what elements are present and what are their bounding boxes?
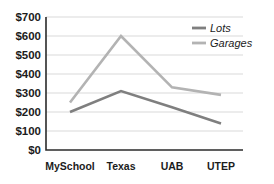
- chart-canvas: $700 $600 $500 $400 $300 $200 $100 $0 My…: [0, 0, 274, 184]
- y-tick-label-0: $0: [28, 144, 41, 156]
- legend-label-lots: Lots: [210, 22, 231, 34]
- y-tick-label-600: $600: [15, 30, 41, 42]
- x-tick-label-myschool: MySchool: [45, 160, 95, 172]
- line-chart: $700 $600 $500 $400 $300 $200 $100 $0 My…: [0, 0, 274, 184]
- legend-label-garages: Garages: [210, 37, 253, 49]
- x-tick-label-texas: Texas: [107, 160, 136, 172]
- y-tick-label-400: $400: [15, 68, 41, 80]
- y-tick-label-300: $300: [15, 87, 41, 99]
- y-tick-label-200: $200: [15, 106, 41, 118]
- y-tick-label-100: $100: [15, 125, 41, 137]
- x-tick-label-utep: UTEP: [207, 160, 235, 172]
- x-tick-label-uab: UAB: [161, 160, 184, 172]
- y-tick-label-700: $700: [15, 11, 41, 23]
- y-tick-label-500: $500: [15, 49, 41, 61]
- chart-background: [0, 0, 274, 184]
